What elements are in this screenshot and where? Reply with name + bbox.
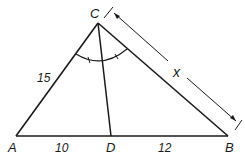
side-ac — [16, 23, 98, 136]
triangle-diagram: C A D B 15 10 12 x — [0, 0, 245, 157]
dimension-line-x-lower — [187, 78, 236, 121]
side-label-db: 12 — [158, 141, 172, 155]
vertex-label-c: C — [90, 6, 100, 21]
side-cb — [98, 23, 228, 136]
side-label-ad: 10 — [55, 141, 69, 155]
vertex-label-a: A — [7, 140, 17, 155]
vertex-label-d: D — [106, 140, 115, 155]
bisector-cd — [98, 23, 111, 136]
vertex-label-b: B — [225, 140, 234, 155]
dimension-tick-top — [104, 7, 113, 18]
dimension-tick-bottom — [235, 120, 242, 130]
side-label-ac: 15 — [37, 71, 51, 85]
side-label-cb-x: x — [172, 64, 181, 80]
dimension-line-x-upper — [114, 13, 168, 61]
